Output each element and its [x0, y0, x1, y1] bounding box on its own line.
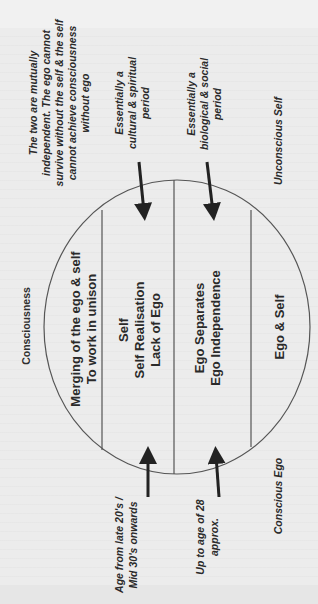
- annotation-line: period: [211, 87, 223, 121]
- annotation-late-20s: Age from late 20's / Mid 30's onwards: [113, 496, 139, 594]
- top-note-line-4: cannot achieve consciousness: [66, 26, 78, 181]
- label-unconscious-self: Unconscious Self: [272, 95, 284, 185]
- annotation-line: cultural & spiritual: [126, 56, 138, 149]
- annotation-age-28: Up to age of 28 approx.: [194, 499, 220, 574]
- section-self: Self Self Realisation Lack of Ego: [116, 282, 163, 379]
- section-line: Self Realisation: [132, 282, 147, 379]
- annotation-biological-social: Essentially a biological & social period: [185, 57, 223, 150]
- section-line: Ego Independence: [208, 270, 223, 386]
- top-note-line-2: independent. The ego cannot: [40, 30, 52, 176]
- section-line: Self: [116, 317, 131, 342]
- annotation-line: Age from late 20's /: [113, 496, 125, 594]
- section-line: Merging of the ego & self: [68, 251, 83, 407]
- ego-self-diagram: The two are mutually independent. The eg…: [0, 0, 318, 604]
- annotation-line: Mid 30's onwards: [127, 501, 139, 588]
- label-conscious-ego: Conscious Ego: [272, 457, 284, 534]
- annotation-cultural-spiritual: Essentially a cultural & spiritual perio…: [113, 56, 151, 149]
- arrow-down-biological-icon: [207, 162, 213, 212]
- annotation-line: approx.: [208, 518, 220, 556]
- annotation-line: Essentially a: [113, 71, 125, 135]
- arrow-down-cultural-icon: [139, 162, 144, 212]
- top-note: The two are mutually independent. The eg…: [27, 18, 91, 186]
- section-line: Ego Separates: [192, 283, 207, 373]
- section-merging: Merging of the ego & self To work in uni…: [68, 251, 99, 407]
- label-consciousness: Consciousness: [20, 287, 32, 365]
- top-note-line-1: The two are mutually: [27, 50, 39, 156]
- section-line: To work in unison: [84, 274, 99, 384]
- diagram-canvas: The two are mutually independent. The eg…: [0, 0, 318, 604]
- section-line: Lack of Ego: [148, 293, 163, 367]
- top-note-line-5: without ego: [79, 73, 91, 132]
- annotation-line: biological & social: [198, 57, 210, 150]
- annotation-line: Up to age of 28: [194, 499, 206, 574]
- annotation-line: Essentially a: [185, 72, 197, 136]
- section-line: Ego & Self: [272, 294, 287, 360]
- arrow-up-age-28-icon: [216, 455, 219, 497]
- annotation-line: period: [139, 86, 151, 120]
- section-ego-and-self: Ego & Self: [272, 294, 287, 360]
- top-note-line-3: survive without the self & the self: [53, 18, 65, 186]
- section-ego-separates: Ego Separates Ego Independence: [192, 270, 223, 386]
